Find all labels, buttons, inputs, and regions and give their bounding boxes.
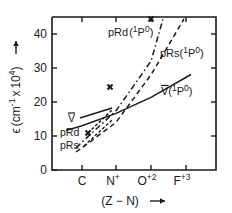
inline-label-vbar-group: V bbox=[68, 112, 75, 124]
x-tick-label-F-base: F bbox=[173, 174, 180, 188]
y-tick-labels: 0 10 20 30 40 bbox=[34, 27, 48, 177]
curve-label-pRd-mid: P bbox=[138, 26, 145, 38]
curve-label-pRs-base: pRs bbox=[160, 47, 180, 59]
x-tick-label-C: C bbox=[78, 174, 87, 188]
chart-plot-area: 0 10 20 30 40 C N+ O+2 F+3 (Z − N) bbox=[0, 0, 232, 213]
y-tick-label-0: 0 bbox=[40, 163, 47, 177]
x-tick-label-F-sup: +3 bbox=[181, 172, 191, 182]
y-tick-label-30: 30 bbox=[34, 61, 48, 75]
x-axis-title: (Z − N) bbox=[101, 194, 165, 208]
curve-label-pRd-close: ) bbox=[150, 26, 154, 38]
curve-label-pRs-1P0: pRs(1P0) bbox=[160, 45, 204, 59]
y-tick-label-10: 10 bbox=[34, 129, 48, 143]
y-axis-title-text: ϵ(cm-1x104) bbox=[7, 67, 23, 134]
y-title-close: ) bbox=[9, 67, 23, 71]
y-title-ten: 10 bbox=[9, 75, 23, 89]
curve-label-pRd-1P0: pRd(1P0) bbox=[108, 24, 153, 38]
y-axis-title: ϵ(cm-1x104) bbox=[7, 41, 23, 133]
inline-label-vbar: V bbox=[68, 112, 75, 124]
x-tick-label-O-base: O bbox=[137, 174, 146, 188]
x-tick-labels: C N+ O+2 F+3 bbox=[78, 172, 191, 188]
x-tick-label-F: F+3 bbox=[173, 172, 190, 188]
curve-label-pRs-close: ) bbox=[200, 47, 204, 59]
x-axis-arrow-head bbox=[160, 198, 165, 204]
figure-container: 0 10 20 30 40 C N+ O+2 F+3 (Z − N) bbox=[0, 0, 232, 213]
y-tick-label-40: 40 bbox=[34, 27, 48, 41]
curve-pRd-1P0 bbox=[76, 19, 163, 148]
y-title-open: (cm bbox=[9, 106, 23, 126]
x-tick-label-N-base: N bbox=[106, 174, 115, 188]
y-title-epsilon: ϵ bbox=[9, 128, 23, 133]
label-leader-lines bbox=[80, 108, 112, 146]
marker-mid bbox=[108, 85, 113, 90]
y-axis-arrow-head bbox=[13, 41, 19, 46]
x-axis-title-text: (Z − N) bbox=[101, 194, 139, 208]
curve-label-pRd-base: pRd bbox=[108, 26, 128, 38]
curve-label-vbar-1P0-group: V(1P0) bbox=[161, 83, 193, 97]
x-tick-label-C-base: C bbox=[78, 174, 87, 188]
curve-label-pRs-mid: P bbox=[188, 47, 195, 59]
curve-label-vbar-mid: P bbox=[177, 85, 184, 97]
inline-label-pRd: pRd bbox=[60, 126, 79, 138]
x-tick-label-N: N+ bbox=[106, 172, 120, 188]
y-title-sup-minus: -1 bbox=[7, 98, 17, 106]
y-title-x: x bbox=[9, 91, 23, 97]
inline-label-pRs: pRs bbox=[60, 139, 79, 151]
x-tick-label-N-sup: + bbox=[115, 172, 120, 182]
x-tick-label-O-sup: +2 bbox=[147, 172, 157, 182]
x-tick-label-O: O+2 bbox=[137, 172, 156, 188]
curve-label-vbar-close: ) bbox=[189, 85, 193, 97]
y-tick-label-20: 20 bbox=[34, 95, 48, 109]
leader-pRd bbox=[88, 110, 112, 133]
